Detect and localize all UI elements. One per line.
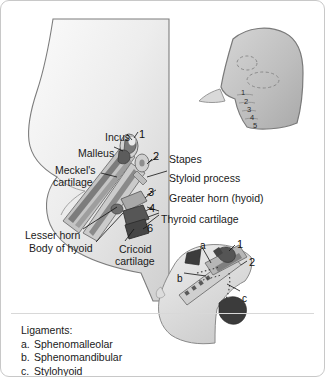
inset-label-ligament-c: c	[242, 293, 247, 304]
arch-number-2: 2	[153, 151, 159, 162]
inset-arch-number-5: 5	[253, 122, 257, 130]
label-cricoid-cartilage-line1: Cricoid	[119, 243, 152, 255]
arch-number-6: 6	[147, 223, 153, 234]
label-body-of-hyoid: Body of hyoid	[29, 242, 93, 254]
label-stapes: Stapes	[169, 153, 202, 165]
inset-label-ligament-b: b	[177, 273, 183, 284]
legend-item-a: a.Sphenomalleolar	[21, 338, 122, 352]
legend-divider	[11, 313, 314, 314]
legend-title: Ligaments:	[21, 324, 122, 338]
label-thyroid-cartilage: Thyroid cartilage	[161, 213, 239, 225]
arch-number-3: 3	[148, 187, 154, 198]
inset-label-ligament-a: a	[200, 240, 206, 251]
inset-arch-number-1: 1	[241, 89, 245, 97]
legend-text-b: Sphenomandibular	[34, 351, 122, 363]
arch-number-1: 1	[139, 129, 145, 140]
inset-adult-profile	[156, 245, 252, 344]
stapes-shape	[135, 154, 149, 172]
label-greater-horn-hyoid: Greater horn (hyoid)	[169, 192, 264, 204]
inset-number-1: 1	[237, 239, 243, 250]
anatomy-figure-panel: Incus Malleus Meckel's cartilage Lesser …	[0, 0, 325, 377]
legend-key-b: b.	[21, 351, 34, 365]
legend-key-a: a.	[21, 338, 34, 352]
label-malleus: Malleus	[78, 147, 114, 159]
label-meckels-cartilage-line2: cartilage	[53, 176, 93, 188]
ligaments-legend: Ligaments: a.Sphenomalleolar b.Sphenoman…	[21, 324, 122, 377]
legend-text-a: Sphenomalleolar	[34, 338, 113, 350]
label-lesser-horn: Lesser horn	[25, 229, 80, 241]
legend-key-c: c.	[21, 365, 34, 377]
legend-text-c: Stylohyoid	[34, 365, 82, 377]
label-styloid-process: Styloid process	[169, 172, 240, 184]
figure-artwork	[1, 1, 325, 377]
inset-number-2: 2	[249, 257, 255, 268]
legend-item-b: b.Sphenomandibular	[21, 351, 122, 365]
label-incus: Incus	[105, 131, 130, 143]
legend-item-c: c.Stylohyoid	[21, 365, 122, 377]
arch-number-4: 4	[149, 203, 155, 214]
label-cricoid-cartilage-line2: cartilage	[115, 255, 155, 267]
label-meckels-cartilage-line1: Meckel's	[55, 164, 96, 176]
